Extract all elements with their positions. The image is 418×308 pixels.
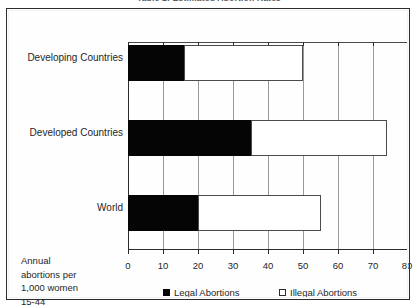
tick-30	[233, 250, 234, 254]
legend-item-illegal: Illegal Abortions	[279, 287, 357, 298]
bar-segment-legal	[128, 195, 198, 231]
tick-20	[198, 250, 199, 254]
plot-area: 0 10 20 30 40 50 60 70 80	[128, 42, 408, 250]
legend-item-legal: Legal Abortions	[163, 287, 240, 298]
legend-label-legal: Legal Abortions	[174, 287, 240, 298]
tick-label-80: 80	[402, 260, 413, 271]
caption-line-1: Annual	[21, 254, 121, 268]
legend-label-illegal: Illegal Abortions	[290, 287, 357, 298]
tick-top-70	[373, 42, 374, 46]
white-square-icon	[279, 289, 286, 296]
bar-segment-legal	[128, 120, 251, 156]
bar-segment-legal	[128, 45, 184, 81]
black-square-icon	[163, 289, 170, 296]
category-label-developing: Developing Countries	[27, 52, 123, 63]
caption-line-3: 1,000 women	[21, 281, 121, 295]
bar-developing-countries	[128, 45, 303, 81]
category-label-world: World	[97, 202, 123, 213]
caption-line-4: 15-44	[21, 295, 121, 308]
bar-segment-illegal	[184, 45, 303, 81]
tick-label-10: 10	[158, 260, 169, 271]
tick-10	[163, 250, 164, 254]
category-label-developed: Developed Countries	[30, 127, 123, 138]
chart-frame: Developing Countries Developed Countries…	[6, 8, 410, 300]
tick-label-30: 30	[228, 260, 239, 271]
tick-0	[128, 250, 129, 254]
tick-label-40: 40	[263, 260, 274, 271]
bar-developed-countries	[128, 120, 387, 156]
bar-segment-illegal	[251, 120, 388, 156]
gridline-80	[407, 42, 408, 250]
tick-70	[373, 250, 374, 254]
tick-label-0: 0	[125, 260, 130, 271]
tick-top-60	[338, 42, 339, 46]
bar-segment-illegal	[198, 195, 321, 231]
tick-label-70: 70	[368, 260, 379, 271]
tick-label-60: 60	[333, 260, 344, 271]
category-label-column: Developing Countries Developed Countries…	[17, 42, 123, 250]
bar-world	[128, 195, 321, 231]
axis-caption: Annual abortions per 1,000 women 15-44	[21, 254, 121, 308]
tick-top-50	[303, 42, 304, 46]
caption-line-2: abortions per	[21, 268, 121, 282]
tick-80	[407, 250, 408, 254]
page-title: Table 1: Estimated Abortion Rates	[0, 0, 418, 3]
tick-50	[303, 250, 304, 254]
chart-legend: Legal Abortions Illegal Abortions	[163, 287, 403, 301]
chart-title-strip: Table 1: Estimated Abortion Rates	[0, 0, 418, 7]
tick-label-20: 20	[193, 260, 204, 271]
tick-60	[338, 250, 339, 254]
tick-label-50: 50	[298, 260, 309, 271]
tick-40	[268, 250, 269, 254]
